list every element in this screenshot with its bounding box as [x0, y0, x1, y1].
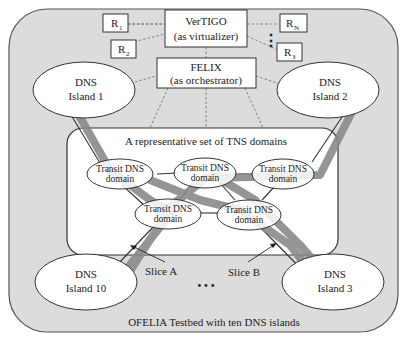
tns-title: A representative set of TNS domains	[125, 135, 287, 147]
transit-domain: Transit DNS domain	[135, 199, 201, 229]
svg-text:2: 2	[126, 50, 130, 58]
resource-r1: R 1	[103, 14, 128, 32]
svg-text:VerTIGO: VerTIGO	[185, 15, 227, 27]
transit-domain: Transit DNS domain	[87, 159, 153, 189]
vertigo-virtualizer: VerTIGO (as virtualizer)	[165, 10, 247, 47]
svg-text:Transit DNS: Transit DNS	[225, 205, 273, 215]
svg-text:3: 3	[292, 53, 296, 61]
svg-text:(as orchestrator): (as orchestrator)	[170, 74, 242, 87]
svg-text:(as virtualizer): (as virtualizer)	[174, 30, 239, 43]
transit-domain: Transit DNS domain	[252, 159, 314, 189]
transit-domain: Transit DNS domain	[217, 200, 281, 230]
dns-island-10: DNS Island 10	[35, 254, 137, 310]
svg-text:Slice B: Slice B	[228, 266, 260, 278]
dns-island-2: DNS Island 2	[277, 62, 379, 118]
svg-text:N: N	[294, 24, 299, 32]
resource-r2: R 2	[111, 40, 136, 58]
svg-text:Transit DNS: Transit DNS	[96, 164, 144, 174]
svg-text:domain: domain	[235, 215, 264, 225]
dns-island-1: DNS Island 1	[33, 62, 135, 118]
svg-text:Transit DNS: Transit DNS	[144, 204, 192, 214]
svg-text:domain: domain	[154, 214, 183, 224]
more-islands-ellipsis: • • •	[197, 279, 214, 291]
testbed-caption: OFELIA Testbed with ten DNS islands	[128, 316, 300, 328]
vertical-ellipsis: ⋮	[263, 32, 279, 49]
svg-text:Slice A: Slice A	[145, 265, 177, 277]
svg-text:Island 1: Island 1	[68, 90, 103, 102]
svg-text:domain: domain	[191, 173, 220, 183]
svg-text:R: R	[118, 43, 126, 55]
svg-text:DNS: DNS	[75, 76, 97, 88]
svg-text:DNS: DNS	[324, 268, 346, 280]
svg-text:FELIX: FELIX	[190, 61, 221, 73]
felix-orchestrator: FELIX (as orchestrator)	[157, 58, 256, 88]
tns-domain-set	[67, 128, 338, 255]
resource-r3: R 3	[277, 43, 302, 61]
svg-text:DNS: DNS	[319, 76, 341, 88]
svg-text:1: 1	[119, 24, 123, 32]
svg-text:domain: domain	[269, 174, 298, 184]
svg-text:R: R	[286, 17, 294, 29]
dns-island-3: DNS Island 3	[282, 254, 384, 310]
svg-text:domain: domain	[106, 174, 135, 184]
ofelia-diagram: A representative set of TNS domains Tran…	[0, 0, 405, 341]
svg-text:Island 2: Island 2	[312, 90, 347, 102]
svg-text:Transit DNS: Transit DNS	[259, 164, 307, 174]
transit-domain: Transit DNS domain	[174, 158, 236, 188]
svg-text:R: R	[284, 46, 292, 58]
svg-text:Transit DNS: Transit DNS	[181, 163, 229, 173]
svg-text:Island 10: Island 10	[66, 282, 107, 294]
svg-text:R: R	[111, 17, 119, 29]
svg-text:Island 3: Island 3	[317, 282, 353, 294]
svg-text:DNS: DNS	[75, 268, 97, 280]
resource-rn: R N	[280, 14, 307, 32]
